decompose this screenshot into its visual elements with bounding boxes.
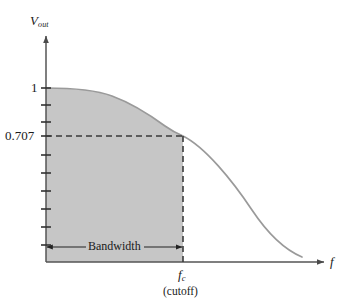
y-axis-label: Vout <box>30 14 49 29</box>
y-tick-label-0707: 0.707 <box>5 129 34 142</box>
y-tick-label-one: 1 <box>31 81 38 94</box>
frequency-response-figure: Vout f 1 0.707 Bandwidth fc (cutoff) <box>0 0 346 307</box>
x-axis-label: f <box>330 255 334 268</box>
bandwidth-label: Bandwidth <box>88 240 141 252</box>
plot-canvas <box>0 0 346 307</box>
shaded-bandwidth-region <box>46 88 183 262</box>
cutoff-frequency-symbol: fc <box>178 268 185 283</box>
cutoff-caption: (cutoff) <box>163 286 198 298</box>
